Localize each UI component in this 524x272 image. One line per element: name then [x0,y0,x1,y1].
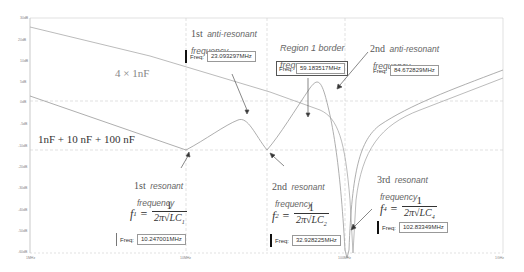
freq-value: 59.183517MHz [296,63,345,74]
kind: resonant [395,175,428,185]
y-tick: 30dB [20,16,28,20]
freq-readout-1st-resonant: Freq: 10.247001MHz [116,234,186,245]
freq-readout-1st-anti-resonant: Freq: 23.093297MHz [185,51,256,62]
y-tick: 0dB [20,100,26,104]
x-tick: 100MHz [338,256,351,260]
marker-bar [116,233,117,246]
y-tick: -20dB [18,165,27,169]
freq-label: Freq: [382,225,396,231]
den-text: 2π√LC [404,207,432,218]
series-label-mixed: 1nF + 10 nF + 100 nF [38,133,135,145]
freq-label: Freq: [373,68,387,74]
fraction: 1 2π√LC1 [152,200,187,228]
denominator: 2π√LC2 [294,213,329,230]
freq-readout-2nd-anti-resonant: Freq: 84.672829MHz [373,65,439,76]
den-subscript: 4 [432,214,435,220]
marker-bar [270,234,272,247]
x-tick: 10MHz [180,256,191,260]
ordinal: Region 1 border [280,43,345,53]
den-text: 2π√LC [296,214,324,225]
freq-value: 102.83349MHz [399,222,448,233]
ordinal: 2nd [370,43,385,54]
x-tick: 1MHz [26,256,35,260]
freq-readout-region-border: Freq: 59.183517MHz [276,61,348,76]
freq-value: 84.672829MHz [390,65,439,76]
y-tick: -10dB [18,144,27,148]
freq-label: Freq: [190,54,204,60]
numerator: 1 [417,195,423,206]
marker-bar [377,221,379,234]
f-subscript: 4 [383,205,387,213]
y-tick: -30dB [18,186,27,190]
den-subscript: 1 [182,219,185,225]
y-tick: 10dB [20,59,28,63]
kind: resonant [291,182,324,192]
freq-value: 32.928225MHz [292,235,341,246]
freq-value: 10.247001MHz [137,234,186,245]
kind: resonant [150,181,183,191]
f-subscript: 1 [133,210,137,218]
denominator: 2π√LC4 [402,206,437,223]
x-tick: 1GHz [495,256,504,260]
ordinal: 1st [134,180,146,191]
y-tick: -5dB [20,122,27,126]
formula-f2: f2 = 1 2π√LC2 [272,202,329,230]
fraction: 1 2π√LC4 [402,195,437,223]
freq-readout-2nd-resonant: Freq: 32.928225MHz [270,235,341,246]
den-subscript: 2 [324,221,327,227]
formula-f1: f1 = 1 2π√LC1 [130,200,187,228]
den-text: 2π√LC [154,212,182,223]
freq-readout-3rd-resonant: Freq: 102.83349MHz [377,222,448,233]
freq-value: 23.093297MHz [207,51,256,62]
freq-label: Freq: [275,238,289,244]
y-tick: -40dB [18,208,27,212]
denominator: 2π√LC1 [152,211,187,228]
freq-label: Freq: [120,237,134,243]
series-label-4x1nf: 4 × 1nF [115,67,149,79]
y-tick: 20dB [18,38,26,42]
formula-f4: f4 = 1 2π√LC4 [380,195,437,223]
ordinal: 1st [191,28,203,39]
numerator: 1 [309,202,315,213]
numerator: 1 [167,200,173,211]
freq-label: Freq: [279,66,293,72]
kind: anti-resonant [389,44,439,54]
fraction: 1 2π√LC2 [294,202,329,230]
kind: anti-resonant [207,29,257,39]
y-tick: -50dB [18,229,27,233]
ordinal: 3rd [377,174,390,185]
ordinal: 2nd [272,181,287,192]
f-subscript: 2 [275,212,279,220]
y-tick: -60dB [18,250,27,254]
y-tick: 5dB [20,80,26,84]
marker-bar [185,50,187,63]
